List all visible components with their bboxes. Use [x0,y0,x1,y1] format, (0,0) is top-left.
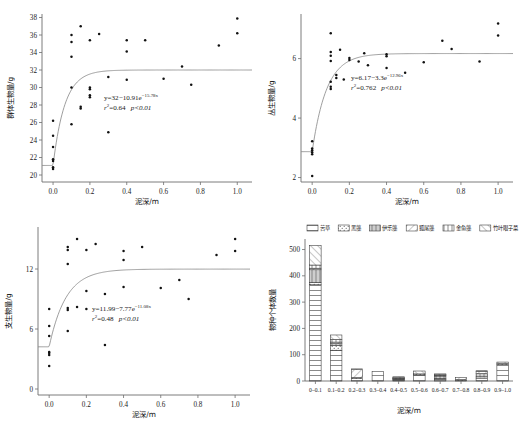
y-tick-label: 30 [30,84,38,92]
data-point [335,74,338,77]
data-point [343,78,346,81]
panel-c-eq-line1: y=11.99−7.77e−11.08x [92,304,151,313]
x-tick-label: 1.0 [231,401,240,409]
y-tick-label: 24 [30,137,38,145]
y-tick-label: 22 [30,154,38,162]
legend-label: 苦草 [320,224,330,232]
data-point [79,106,82,109]
bar-segment [434,376,445,378]
legend-label: 伊乐藻 [382,224,398,232]
bar-segment [351,369,362,370]
data-point [89,39,92,42]
data-point [98,33,101,36]
legend-label: 狐尾藻 [419,224,435,232]
panel-c-y-ticks: 0612 [26,266,38,394]
data-point [125,50,128,53]
bar-segment [476,371,487,372]
data-point [234,238,237,241]
data-point [48,351,51,354]
legend-swatch [369,225,380,231]
legend-label: 黑藻 [351,224,362,232]
panel-d-y-axis-label: 物种个体数量 [268,288,277,331]
legend-swatch [307,225,318,231]
data-point [311,147,314,150]
data-point [125,78,128,81]
panel-a-x-axis-label: 泥深/m [135,197,159,206]
panel-b-y-ticks: 246 [292,55,301,182]
data-point [76,306,79,309]
y-tick-label: 38 [30,14,38,22]
y-tick-label: 300 [289,299,300,307]
x-tick-label: 0.2 [85,188,94,196]
panel-a-scatter: 20222426283032343638 0.00.20.40.60.81.0 … [0,0,262,213]
data-point [190,84,193,87]
y-tick-label: 400 [289,272,300,280]
bar-segment [310,265,321,268]
bar-segment [351,379,362,381]
y-tick-label: 20 [30,172,38,180]
panel-b-x-ticks: 0.00.20.40.60.81.0 [308,182,503,196]
data-point [311,175,314,178]
y-tick-label: 100 [289,351,300,359]
bar-segment [497,365,508,381]
data-point [385,67,388,70]
x-tick-label: 0.1–0.2 [328,387,345,393]
data-point [497,34,500,37]
data-point [497,22,500,25]
data-point [79,25,82,28]
panel-d-y-ticks: 0100200300400500 [289,246,305,385]
bar-segment [372,372,383,381]
panel-b-fit-curve [301,54,513,152]
panel-a-y-axis-label: 群体生物量/g [6,77,15,119]
data-point [52,134,55,137]
x-tick-label: 0.4 [382,188,391,196]
panel-c-points [48,238,236,368]
panel-c-x-axis-label: 泥深/m [132,410,156,419]
x-tick-label: 0.4 [119,401,128,409]
data-point [330,81,333,84]
legend-swatch [443,225,454,231]
bar-segment [310,282,321,284]
data-point [178,279,181,282]
bar-segment [330,350,341,381]
data-point [48,308,51,311]
x-tick-label: 0–0.1 [309,387,322,393]
x-tick-label: 0.7–0.8 [453,387,470,393]
panel-d-x-ticklabels: 0–0.10.1–0.20.2–0.30.3–0.40.4–0.50.5–0.6… [309,387,511,393]
bar-segment [455,378,466,380]
data-point [48,335,51,338]
panel-b-x-axis-label: 泥深/m [395,197,419,206]
x-tick-label: 0.8 [193,401,202,409]
bar-segment [310,285,321,381]
data-point [67,263,70,266]
data-point [107,76,110,79]
x-tick-label: 0.9–1.0 [494,387,511,393]
data-point [104,293,107,296]
x-tick-label: 0.6 [159,188,168,196]
x-tick-label: 0.2 [82,401,91,409]
y-tick-label: 12 [26,266,34,274]
y-tick-label: 4 [292,115,296,123]
x-tick-label: 0.2–0.3 [349,387,366,393]
figure-four-panel: 20222426283032343638 0.00.20.40.60.81.0 … [0,0,525,426]
x-tick-label: 1.0 [233,188,242,196]
y-tick-label: 26 [30,119,38,127]
bar-segment [434,374,445,375]
data-point [404,72,407,75]
data-point [159,287,162,290]
data-point [122,286,125,289]
panel-b-y-axis-label: 丛生物量/g [267,80,276,115]
bar-segment [476,378,487,381]
panel-a-y-ticks: 20222426283032343638 [30,14,42,180]
panel-b-eq-line2: r2=0.762p<0.01 [351,83,402,92]
data-point [450,48,453,51]
panel-b-eq-line1: y=6.17−3.3e−12.96x [351,73,404,82]
legend-label: 竹叶眼子菜 [493,224,519,232]
data-point [48,325,51,328]
data-point [236,32,239,35]
y-tick-label: 500 [289,246,300,254]
x-tick-label: 0.0 [308,188,317,196]
panel-b-points [311,22,499,177]
panel-c-scatter: 0612 0.00.20.40.60.81.0 y=11.99−7.77e−11… [0,213,262,426]
x-tick-label: 0.0 [45,401,54,409]
